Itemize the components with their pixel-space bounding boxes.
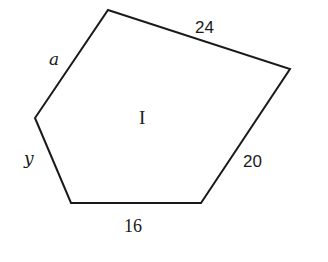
side-label-left-lower: y — [23, 148, 34, 168]
side-label-bottom: 16 — [124, 216, 142, 236]
side-label-right-lower: 20 — [243, 152, 262, 171]
pentagon-diagram: 24 20 16 y a I — [0, 0, 328, 262]
side-label-top-right: 24 — [195, 18, 214, 37]
region-label: I — [139, 107, 145, 128]
pentagon-outline — [35, 10, 290, 203]
side-label-left-upper: a — [49, 49, 59, 69]
